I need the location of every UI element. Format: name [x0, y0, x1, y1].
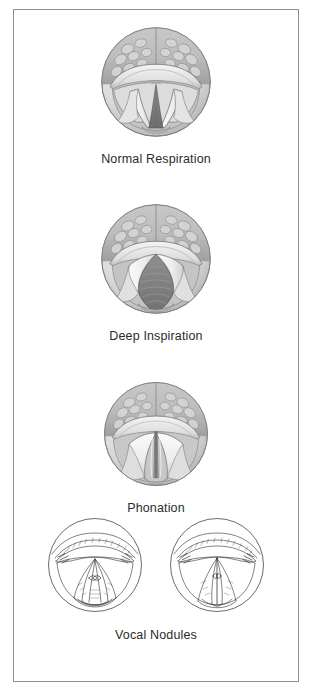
panel-normal-respiration: Normal Respiration	[14, 23, 298, 167]
larynx-view-nodules-closed	[167, 515, 267, 615]
larynx-view-nodules-open	[45, 515, 145, 615]
figure-normal-respiration	[14, 23, 298, 141]
panel-phonation: Phonation	[14, 378, 298, 516]
panel-deep-inspiration: Deep Inspiration	[14, 200, 298, 344]
caption-vocal-nodules: Vocal Nodules	[14, 627, 298, 643]
larynx-view-normal-respiration	[97, 23, 215, 141]
figure-deep-inspiration	[14, 200, 298, 318]
panel-vocal-nodules: Vocal Nodules	[14, 515, 298, 643]
caption-normal-respiration: Normal Respiration	[14, 151, 298, 167]
larynx-view-phonation	[100, 378, 212, 490]
caption-phonation: Phonation	[14, 500, 298, 516]
figure-phonation	[14, 378, 298, 490]
figure-vocal-nodules	[14, 515, 298, 615]
illustration-frame: Normal Respiration	[13, 9, 299, 682]
larynx-view-deep-inspiration	[97, 200, 215, 318]
caption-deep-inspiration: Deep Inspiration	[14, 328, 298, 344]
